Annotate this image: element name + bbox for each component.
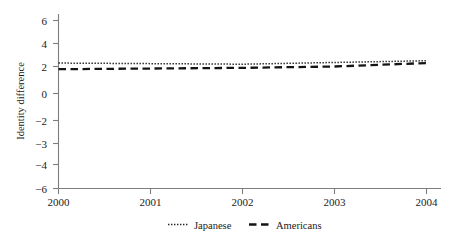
x-tick-label: 2001 [140,196,162,208]
line-chart: 6 4 2 0 −2 −3 −4 −6 Identity difference … [0,0,458,243]
y-tick-label: −2 [35,115,47,127]
chart-canvas: 6 4 2 0 −2 −3 −4 −6 Identity difference … [0,0,458,243]
y-tick-label: 4 [42,38,48,50]
x-tick-label: 2002 [232,196,254,208]
y-tick-label: 6 [42,15,48,27]
y-tick-label: −3 [35,138,47,150]
x-tick-label: 2003 [324,196,347,208]
legend-label-americans: Americans [276,220,321,231]
x-tick-label: 2000 [48,196,71,208]
y-tick-label: −6 [35,183,47,195]
y-tick-label: 0 [42,88,48,100]
y-tick-label: −4 [35,159,47,171]
y-tick-label: 2 [42,61,48,73]
x-tick-label: 2004 [416,196,439,208]
legend-label-japanese: Japanese [194,220,232,231]
y-axis-title: Identity difference [15,62,26,140]
